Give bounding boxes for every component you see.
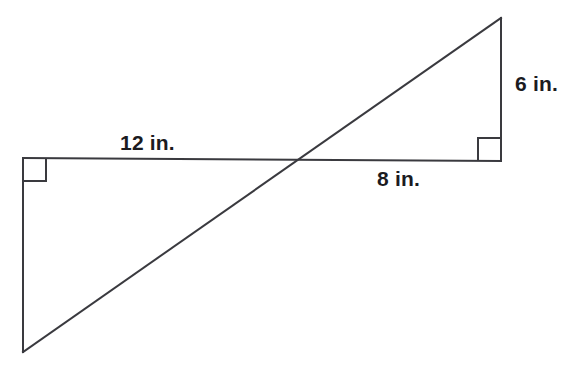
right-right-angle-marker-icon <box>478 138 501 161</box>
geometry-figure <box>0 0 571 365</box>
horizontal-segment-line <box>23 158 501 161</box>
left-right-angle-marker-icon <box>23 158 46 181</box>
geometry-diagram: 12 in. 8 in. 6 in. <box>0 0 571 365</box>
diagonal-transversal-line <box>23 18 501 352</box>
dimension-label-bottom-8in: 8 in. <box>377 168 420 189</box>
dimension-label-top-12in: 12 in. <box>120 132 175 153</box>
dimension-label-right-6in: 6 in. <box>515 73 558 94</box>
